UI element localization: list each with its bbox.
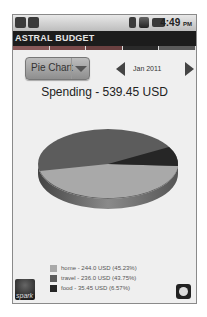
tab-indicator[interactable] xyxy=(86,46,123,50)
tab-indicator[interactable] xyxy=(159,46,196,50)
legend-swatch xyxy=(50,275,57,282)
tab-indicator[interactable] xyxy=(13,46,50,50)
signal-icon xyxy=(139,17,149,28)
spark-label: spark xyxy=(16,292,33,299)
clock: 4:49 PM xyxy=(160,17,192,28)
tab-indicator[interactable] xyxy=(123,46,160,50)
android-icon xyxy=(28,17,39,28)
dropdown-divider xyxy=(71,58,72,79)
previous-month-button[interactable] xyxy=(116,62,125,76)
pie-chart xyxy=(33,119,183,219)
month-label: Jan 2011 xyxy=(133,65,161,72)
legend-swatch xyxy=(50,285,57,292)
status-bar: 4:49 PM xyxy=(13,15,196,31)
legend-swatch xyxy=(50,265,57,272)
chart-legend: home - 244.0 USD (45.23%) travel - 236.0… xyxy=(50,263,137,293)
legend-item-food: food - 35.45 USD (6.57%) xyxy=(50,283,137,293)
tab-indicator[interactable] xyxy=(50,46,87,50)
globe-icon xyxy=(179,287,188,296)
spending-total: Spending - 539.45 USD xyxy=(13,85,196,99)
tab-stripe xyxy=(13,46,196,50)
spark-button[interactable]: spark xyxy=(15,279,35,300)
battery-icon xyxy=(129,17,136,28)
phone-screen: 4:49 PM ASTRAL BUDGET Pie Chart Jan 2011… xyxy=(12,14,197,304)
usb-icon xyxy=(15,17,26,28)
legend-item-travel: travel - 236.0 USD (43.75%) xyxy=(50,273,137,283)
chevron-down-icon[interactable] xyxy=(75,66,87,72)
legend-item-home: home - 244.0 USD (45.23%) xyxy=(50,263,137,273)
app-title-bar: ASTRAL BUDGET xyxy=(13,31,196,46)
globe-button[interactable] xyxy=(176,284,191,299)
chart-type-dropdown[interactable]: Pie Chart xyxy=(25,57,90,80)
chart-type-label: Pie Chart xyxy=(31,62,73,73)
next-month-button[interactable] xyxy=(185,62,194,76)
app-title: ASTRAL BUDGET xyxy=(15,33,94,43)
